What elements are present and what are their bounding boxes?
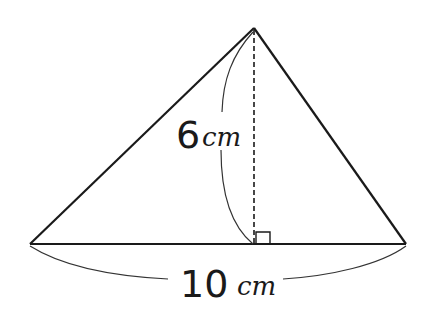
height-label-value: 6 [176, 113, 200, 157]
base-label-unit: cm [237, 271, 276, 301]
triangle-right-side [254, 28, 406, 244]
triangle-diagram: 6 cm 10 cm [0, 0, 430, 315]
height-label-unit: cm [202, 122, 241, 152]
right-angle-mark [256, 232, 270, 244]
height-brace-lower [221, 150, 253, 244]
base-brace-right [283, 246, 406, 279]
base-label-value: 10 [180, 262, 228, 306]
base-brace-left [30, 246, 168, 279]
